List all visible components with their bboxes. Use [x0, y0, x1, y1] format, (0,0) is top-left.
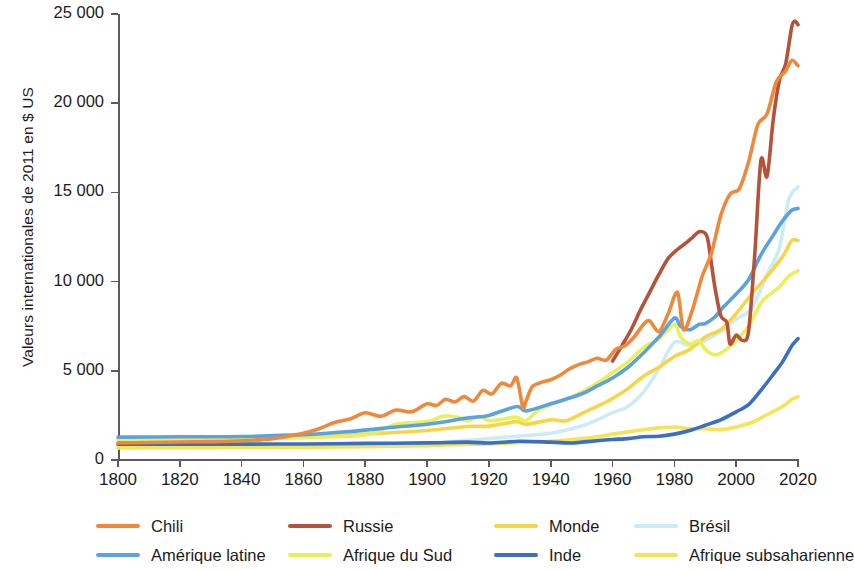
legend-swatch-icon: [494, 524, 538, 529]
chart-legend: ChiliRussieMondeBrésilAmérique latineAfr…: [96, 512, 822, 568]
x-tick-1880: [364, 460, 366, 467]
series-lines: [118, 14, 798, 460]
x-tick-1800: [117, 460, 119, 467]
legend-label: Russie: [343, 517, 393, 536]
legend-item-afrique-du-sud[interactable]: Afrique du Sud: [288, 541, 452, 569]
y-tick-15000: [111, 192, 118, 194]
legend-label: Afrique du Sud: [343, 546, 452, 565]
y-tick-10000: [111, 281, 118, 283]
legend-item-am-rique-latine[interactable]: Amérique latine: [96, 541, 266, 569]
x-tick-1980: [674, 460, 676, 467]
series-line-russie: [613, 21, 798, 361]
y-tick-20000: [111, 102, 118, 104]
legend-swatch-icon: [634, 524, 678, 529]
legend-swatch-icon: [288, 553, 332, 558]
plot-area: [118, 14, 798, 460]
x-tick-1820: [179, 460, 181, 467]
series-line-chili: [118, 60, 798, 443]
y-tick-label-25000: 25 000: [8, 3, 104, 22]
x-tick-1900: [426, 460, 428, 467]
y-tick-label-0: 0: [8, 449, 104, 468]
x-tick-1940: [550, 460, 552, 467]
y-tick-label-10000: 10 000: [8, 271, 104, 290]
legend-label: Chili: [151, 517, 183, 536]
series-line-monde: [118, 240, 798, 439]
legend-swatch-icon: [96, 524, 140, 529]
legend-swatch-icon: [96, 553, 140, 558]
y-tick-label-5000: 5 000: [8, 360, 104, 379]
y-tick-label-20000: 20 000: [8, 92, 104, 111]
legend-label: Monde: [549, 517, 599, 536]
legend-item-russie[interactable]: Russie: [288, 512, 393, 540]
legend-label: Afrique subsaharienne: [689, 546, 854, 565]
x-tick-2020: [797, 460, 799, 467]
x-tick-1960: [612, 460, 614, 467]
legend-label: Inde: [549, 546, 581, 565]
legend-item-monde[interactable]: Monde: [494, 512, 599, 540]
series-line-am-rique-latine: [118, 208, 798, 437]
legend-row-0: ChiliRussieMondeBrésil: [96, 512, 822, 540]
x-tick-1840: [241, 460, 243, 467]
x-tick-1920: [488, 460, 490, 467]
legend-row-1: Amérique latineAfrique du SudIndeAfrique…: [96, 541, 822, 569]
legend-label: Amérique latine: [151, 546, 266, 565]
y-tick-label-15000: 15 000: [8, 181, 104, 200]
x-tick-2000: [735, 460, 737, 467]
legend-item-inde[interactable]: Inde: [494, 541, 581, 569]
series-line-br-sil: [118, 187, 798, 446]
legend-item-br-sil[interactable]: Brésil: [634, 512, 730, 540]
legend-swatch-icon: [494, 553, 538, 558]
y-tick-5000: [111, 370, 118, 372]
legend-label: Brésil: [689, 517, 730, 536]
y-tick-25000: [111, 13, 118, 15]
x-tick-1860: [303, 460, 305, 467]
legend-swatch-icon: [288, 524, 332, 529]
legend-swatch-icon: [634, 553, 678, 558]
x-tick-label-2020: 2020: [758, 470, 838, 490]
legend-item-chili[interactable]: Chili: [96, 512, 183, 540]
legend-item-afrique-subsaharienne[interactable]: Afrique subsaharienne: [634, 541, 854, 569]
